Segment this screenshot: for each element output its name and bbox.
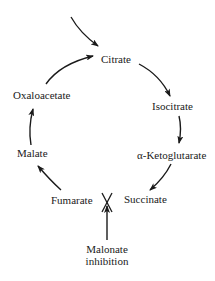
inhibitor-label-line2: inhibition xyxy=(82,255,132,267)
inhibitor-label-line1: Malonate xyxy=(82,243,132,255)
node-citrate: Citrate xyxy=(101,53,131,65)
node-alpha-ketoglutarate: α-Ketoglutarate xyxy=(137,149,206,161)
entry-arrow xyxy=(71,17,98,46)
arrow-fumarate-to-malate xyxy=(38,166,61,190)
node-malate: Malate xyxy=(17,147,48,159)
arrow-alpha-ketoglutarate-to-succinate xyxy=(150,164,171,190)
arrow-oxaloacetate-to-citrate xyxy=(46,56,93,84)
node-oxaloacetate: Oxaloacetate xyxy=(13,89,70,101)
node-isocitrate: Isocitrate xyxy=(152,100,193,112)
node-fumarate: Fumarate xyxy=(51,194,93,206)
node-succinate: Succinate xyxy=(124,193,167,205)
arrow-isocitrate-to-alpha-ketoglutarate xyxy=(179,116,181,143)
arrow-malate-to-oxaloacetate xyxy=(30,109,33,145)
cycle-arrows xyxy=(0,0,215,281)
citric-acid-cycle-diagram: Citrate Isocitrate α-Ketoglutarate Succi… xyxy=(0,0,215,281)
arrow-citrate-to-isocitrate xyxy=(139,64,170,96)
